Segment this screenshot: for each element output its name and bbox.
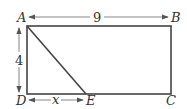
vertex-label-a: A xyxy=(16,10,26,25)
dimension-label-de: x xyxy=(52,92,60,107)
segment-ae xyxy=(27,26,86,94)
vertex-label-c: C xyxy=(166,93,176,108)
rectangle-diagram: A B C D E 9 4 x xyxy=(0,0,187,109)
dimension-label-ab: 9 xyxy=(93,10,101,25)
rectangle-abcd xyxy=(27,26,171,94)
vertex-label-d: D xyxy=(15,93,27,108)
dimension-label-ad: 4 xyxy=(15,53,23,68)
vertex-label-e: E xyxy=(85,93,96,108)
vertex-label-b: B xyxy=(170,10,181,25)
